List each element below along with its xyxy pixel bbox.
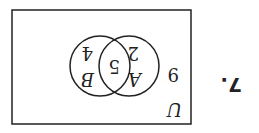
set-a-label: A — [128, 69, 143, 90]
circle-b — [70, 36, 130, 96]
outside-value: 9 — [168, 64, 179, 85]
set-b-value: 4 — [82, 43, 93, 64]
set-a-value: 2 — [128, 43, 139, 64]
set-b-label: B — [81, 69, 95, 90]
universe-rectangle — [12, 10, 191, 124]
intersection-value: 5 — [109, 56, 120, 77]
venn-diagram: U 9 A 2 5 B 4 — [0, 0, 259, 133]
universe-label: U — [166, 99, 182, 120]
rotated-figure: 7. U 9 A 2 5 B 4 — [0, 0, 259, 133]
